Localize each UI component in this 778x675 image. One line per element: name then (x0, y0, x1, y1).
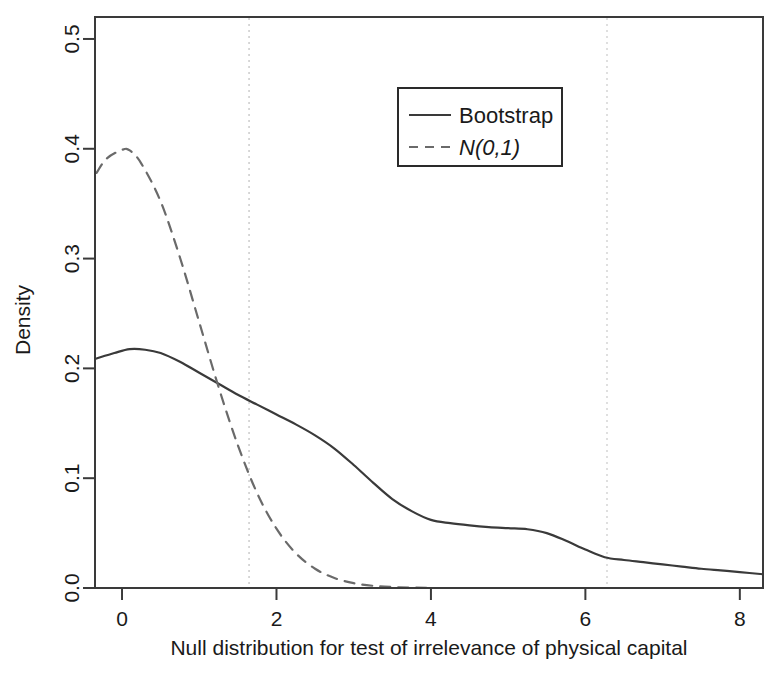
x-axis-ticks: 02468 (116, 588, 745, 630)
x-tick-label-2: 4 (425, 607, 437, 630)
y-tick-label-5: 0.5 (60, 24, 83, 53)
y-tick-label-4: 0.4 (60, 134, 83, 164)
y-tick-label-0: 0.0 (60, 573, 83, 602)
x-tick-label-0: 0 (116, 607, 128, 630)
x-tick-label-4: 8 (734, 607, 746, 630)
series-paths-group (97, 149, 763, 588)
y-tick-label-2: 0.2 (60, 354, 83, 383)
x-axis-title: Null distribution for test of irrelevanc… (170, 636, 687, 659)
density-plot: 0.00.10.20.30.40.5 02468 Null distributi… (0, 0, 778, 675)
x-tick-label-3: 6 (580, 607, 592, 630)
y-tick-label-3: 0.3 (60, 244, 83, 273)
legend-label-bootstrap: Bootstrap (459, 103, 553, 128)
y-axis-title: Density (11, 284, 34, 355)
legend-label-normal: N(0,1) (459, 135, 520, 160)
y-tick-label-1: 0.1 (60, 464, 83, 493)
chart-legend: Bootstrap N(0,1) (398, 88, 562, 166)
series-line-n-0-1 (97, 149, 428, 588)
chart-page: 0.00.10.20.30.40.5 02468 Null distributi… (0, 0, 778, 675)
series-line-bootstrap (97, 349, 763, 574)
x-tick-label-1: 2 (271, 607, 283, 630)
y-axis-ticks: 0.00.10.20.30.40.5 (60, 24, 95, 602)
